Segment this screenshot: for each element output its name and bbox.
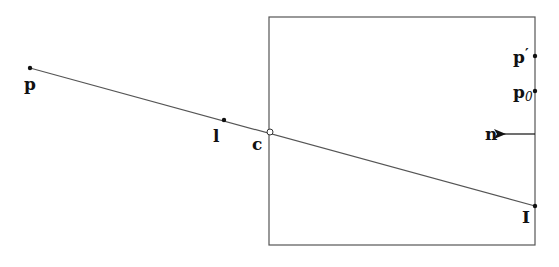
point-c-marker [267, 129, 273, 135]
diagram-canvas: plcp′p0I n [0, 0, 559, 267]
point-c-label: c [252, 134, 262, 154]
point-p_prime-marker [533, 54, 537, 58]
points-group [28, 54, 537, 208]
point-p-marker [28, 66, 32, 70]
point-p0-marker [533, 89, 537, 93]
point-l-label: l [213, 126, 220, 146]
normal-label: n [485, 124, 497, 144]
point-l-marker [222, 118, 226, 122]
point-I-label: I [522, 207, 530, 227]
point-p_prime-label: p′ [513, 46, 529, 67]
point-p-label: p [24, 74, 36, 94]
ray-line [30, 68, 535, 206]
point-p0-label: p0 [513, 82, 533, 104]
point-I-marker [533, 204, 537, 208]
